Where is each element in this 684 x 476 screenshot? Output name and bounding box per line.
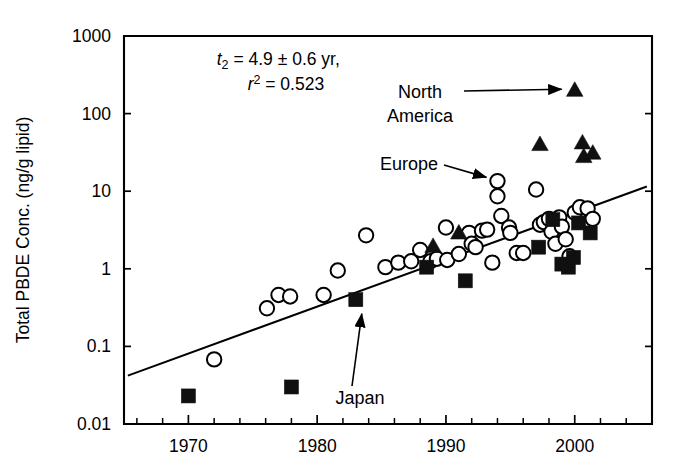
data-point-circle [516, 246, 530, 260]
data-point-square [458, 274, 472, 288]
doubling-time-annotation: t2 = 4.9 ± 0.6 yr, [217, 49, 340, 72]
r-squared-annotation: r2 = 0.523 [248, 73, 325, 94]
europe-arrow [444, 165, 486, 177]
data-point-square [420, 260, 434, 274]
data-point-circle [331, 263, 345, 277]
x-tick-label: 1980 [298, 436, 337, 456]
data-point-circle [490, 189, 504, 203]
data-point-circle [207, 352, 221, 366]
data-point-circle [316, 288, 330, 302]
x-tick-label: 1970 [169, 436, 208, 456]
y-tick-label: 0.01 [77, 414, 111, 434]
y-tick-label: 10 [92, 181, 112, 201]
data-point-triangle [425, 238, 442, 253]
data-point-circle [359, 228, 373, 242]
data-point-square [583, 226, 597, 240]
y-tick-label: 0.1 [87, 336, 111, 356]
data-point-circle [529, 182, 543, 196]
y-tick-label: 1000 [72, 26, 111, 46]
x-tick-label: 2000 [555, 436, 594, 456]
data-point-triangle [574, 134, 591, 149]
japan-arrow [352, 314, 362, 386]
pbde-trend-figure: 0.010.111010010001970198019902000Total P… [0, 0, 684, 476]
data-point-circle [586, 212, 600, 226]
series-japan [181, 213, 597, 403]
data-point-square [181, 389, 195, 403]
data-point-square [546, 213, 560, 227]
data-point-circle [452, 247, 466, 261]
data-point-circle [480, 222, 494, 236]
y-tick-label: 1 [101, 259, 111, 279]
data-point-circle [283, 289, 297, 303]
data-points-group [181, 82, 601, 403]
data-point-circle [503, 226, 517, 240]
data-point-circle [559, 232, 573, 246]
data-point-triangle [532, 136, 549, 151]
data-point-square [532, 240, 546, 254]
data-point-triangle [566, 82, 583, 97]
north-america-label-line2: America [387, 106, 454, 126]
series-europe [207, 174, 600, 367]
y-axis-title: Total PBDE Conc. (ng/g lipid) [13, 117, 33, 344]
y-tick-label: 100 [82, 104, 111, 124]
data-point-circle [260, 301, 274, 315]
data-point-square [349, 293, 363, 307]
europe-label: Europe [380, 154, 438, 174]
data-point-circle [485, 255, 499, 269]
x-tick-label: 1990 [426, 436, 465, 456]
north-america-arrow [464, 89, 562, 91]
data-point-circle [413, 243, 427, 257]
north-america-label-line1: North [398, 82, 442, 102]
data-point-circle [490, 174, 504, 188]
data-point-circle [468, 240, 482, 254]
data-point-square [566, 250, 580, 264]
data-point-square [284, 380, 298, 394]
chart-canvas: 0.010.111010010001970198019902000Total P… [0, 0, 684, 476]
data-point-circle [439, 220, 453, 234]
japan-label: Japan [335, 388, 384, 408]
